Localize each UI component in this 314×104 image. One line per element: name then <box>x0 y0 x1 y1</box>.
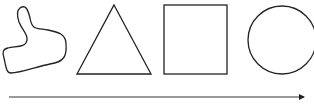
diagram-svg <box>0 0 314 104</box>
blob-shape <box>3 7 66 73</box>
triangle-shape <box>77 5 151 74</box>
shape-progression-diagram <box>0 0 314 104</box>
circle-shape <box>248 6 314 74</box>
square-shape <box>164 5 227 74</box>
